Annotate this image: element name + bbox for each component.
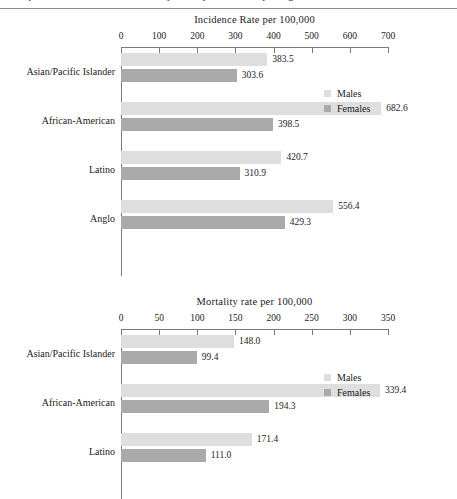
legend-label-males: Males xyxy=(337,86,361,101)
chart-title: Incidence Rate per 100,000 xyxy=(121,14,388,25)
bar-value-label: 682.6 xyxy=(386,101,407,115)
bar-value-label: 310.9 xyxy=(245,166,266,180)
bar-group: Latino171.4111.0 xyxy=(121,428,457,477)
legend-swatch-males-icon xyxy=(324,90,331,97)
x-axis-tick xyxy=(388,47,389,53)
caption-divider xyxy=(0,8,457,9)
x-axis-tick xyxy=(350,47,351,53)
x-axis-tick-label: 500 xyxy=(305,31,319,41)
chart-mortality-rate: Mortality rate per 100,000 0501001502002… xyxy=(0,296,457,499)
bar-group: African-American682.6398.5 xyxy=(121,97,457,146)
caption-strip: Comparison of incidence and mortality ra… xyxy=(0,0,457,11)
x-axis-tick xyxy=(159,47,160,53)
x-axis-tick-labels: 0100200300400500600700 xyxy=(121,31,388,44)
x-axis-tick-label: 50 xyxy=(154,313,164,323)
x-axis-tick-label: 400 xyxy=(266,31,280,41)
bar-group: Anglo556.4429.3 xyxy=(121,195,457,244)
x-axis-tick-label: 150 xyxy=(228,313,242,323)
bar-value-label: 171.4 xyxy=(257,432,278,446)
x-axis-tick xyxy=(274,47,275,53)
bar-females xyxy=(121,216,285,229)
bar-group: African-American339.4194.3 xyxy=(121,379,457,428)
bar-females xyxy=(121,400,269,413)
chart-incidence-rate: Incidence Rate per 100,000 0100200300400… xyxy=(0,14,457,276)
legend-swatch-females-icon xyxy=(324,389,331,396)
bar-males xyxy=(121,53,267,66)
x-axis-tick-label: 300 xyxy=(228,31,242,41)
x-axis-tick xyxy=(121,329,122,335)
plot-area: Asian/Pacific Islander383.5303.6African-… xyxy=(121,48,457,244)
category-label: Latino xyxy=(0,163,115,176)
bar-males xyxy=(121,335,234,348)
x-axis-tick-label: 0 xyxy=(119,313,124,323)
bar-males xyxy=(121,200,333,213)
x-axis-tick-labels: 050100150200250300350 xyxy=(121,313,388,326)
x-axis-tick-label: 100 xyxy=(190,313,204,323)
x-axis-tick-label: 200 xyxy=(266,313,280,323)
legend-item-males: Males xyxy=(324,86,370,101)
category-label: Anglo xyxy=(0,212,115,225)
bar-value-label: 99.4 xyxy=(202,350,219,364)
x-axis-tick xyxy=(197,329,198,335)
category-label: African-American xyxy=(0,114,115,127)
x-axis-tick-label: 100 xyxy=(152,31,166,41)
bar-males xyxy=(121,151,281,164)
bar-value-label: 383.5 xyxy=(272,52,293,66)
bar-females xyxy=(121,449,206,462)
bar-females xyxy=(121,167,240,180)
legend-label-males: Males xyxy=(337,370,361,385)
legend-item-females: Females xyxy=(324,385,370,400)
chart-title: Mortality rate per 100,000 xyxy=(121,296,388,307)
legend-item-males: Males xyxy=(324,370,370,385)
bar-value-label: 398.5 xyxy=(278,117,299,131)
legend: Males Females xyxy=(324,86,370,116)
category-label: Asian/Pacific Islander xyxy=(0,65,115,78)
x-axis-tick xyxy=(121,47,122,53)
legend-label-females: Females xyxy=(337,385,370,400)
x-axis-tick xyxy=(159,329,160,335)
bar-value-label: 429.3 xyxy=(290,215,311,229)
category-label: Latino xyxy=(0,445,115,458)
bar-females xyxy=(121,69,237,82)
bar-males xyxy=(121,433,252,446)
legend: Males Females xyxy=(324,370,370,400)
bar-value-label: 556.4 xyxy=(338,199,359,213)
x-axis-tick-label: 250 xyxy=(305,313,319,323)
x-axis-tick xyxy=(350,329,351,335)
bar-group: Asian/Pacific Islander383.5303.6 xyxy=(121,48,457,97)
bar-value-label: 194.3 xyxy=(274,399,295,413)
bar-females xyxy=(121,351,197,364)
x-axis-tick xyxy=(388,329,389,335)
x-axis-tick xyxy=(197,47,198,53)
x-axis-tick xyxy=(312,47,313,53)
x-axis-tick-label: 350 xyxy=(381,313,395,323)
x-axis-tick xyxy=(235,47,236,53)
bar-value-label: 339.4 xyxy=(385,383,406,397)
x-axis-tick xyxy=(235,329,236,335)
plot-area: Asian/Pacific Islander148.099.4African-A… xyxy=(121,330,457,477)
legend-swatch-females-icon xyxy=(324,105,331,112)
legend-swatch-males-icon xyxy=(324,374,331,381)
x-axis-tick xyxy=(274,329,275,335)
bar-females xyxy=(121,118,273,131)
bar-value-label: 148.0 xyxy=(239,334,260,348)
x-axis-tick-label: 0 xyxy=(119,31,124,41)
bar-value-label: 420.7 xyxy=(286,150,307,164)
legend-item-females: Females xyxy=(324,101,370,116)
caption-text: Comparison of incidence and mortality ra… xyxy=(8,0,449,2)
x-axis-tick-label: 300 xyxy=(343,313,357,323)
x-axis-tick-label: 200 xyxy=(190,31,204,41)
bar-group: Asian/Pacific Islander148.099.4 xyxy=(121,330,457,379)
x-axis-tick-label: 700 xyxy=(381,31,395,41)
x-axis-tick-label: 600 xyxy=(343,31,357,41)
bar-group: Latino420.7310.9 xyxy=(121,146,457,195)
bar-value-label: 303.6 xyxy=(242,68,263,82)
category-label: Asian/Pacific Islander xyxy=(0,347,115,360)
legend-label-females: Females xyxy=(337,101,370,116)
x-axis-tick xyxy=(312,329,313,335)
bar-value-label: 111.0 xyxy=(211,448,232,462)
category-label: African-American xyxy=(0,396,115,409)
